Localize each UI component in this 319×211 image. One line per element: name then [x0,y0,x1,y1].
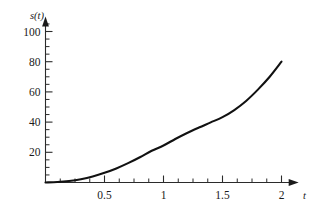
y-tick-label: 80 [29,56,41,68]
y-tick-label: 20 [29,146,41,158]
x-axis-label: t [303,190,307,201]
y-axis-major-ticks [46,32,53,153]
plot-canvas: 20406080100 0.511.52 s(t) t [0,0,319,211]
chart-figure: 20406080100 0.511.52 s(t) t [0,0,319,211]
y-tick-label: 40 [29,116,41,128]
x-tick-label: 1 [161,189,167,201]
x-axis-arrowhead [289,179,299,186]
y-tick-label: 60 [29,86,41,98]
x-axis-tick-labels: 0.511.52 [97,189,284,201]
x-tick-label: 0.5 [97,189,112,201]
y-axis-tick-labels: 20406080100 [23,26,41,159]
data-series-curve [46,62,282,183]
x-tick-label: 1.5 [215,189,230,201]
x-tick-label: 2 [279,189,285,201]
y-tick-label: 100 [23,26,41,38]
y-axis-label: s(t) [30,10,45,22]
